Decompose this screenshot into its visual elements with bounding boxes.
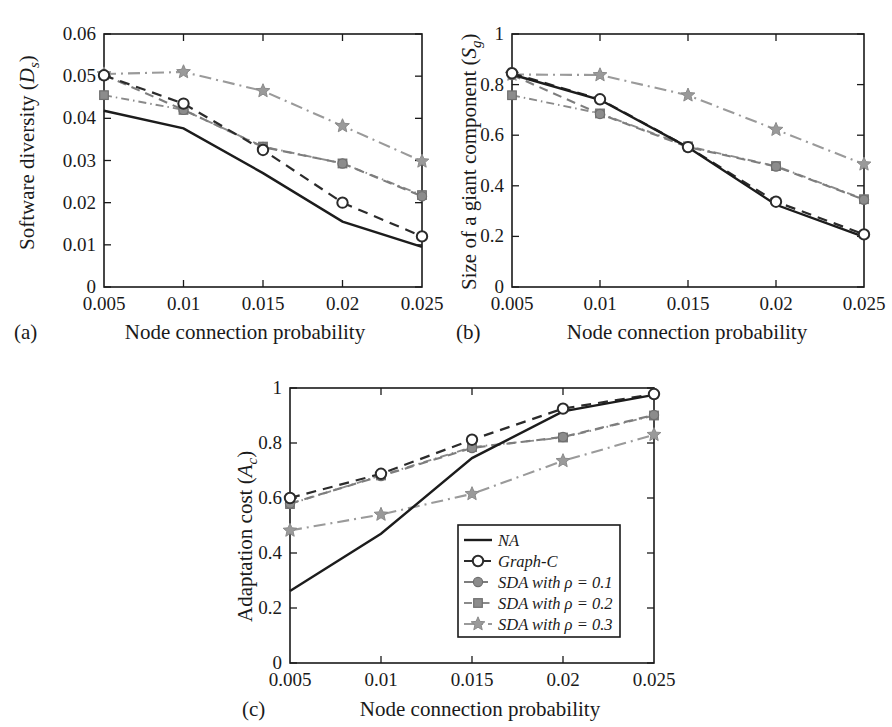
y-tick-label: 0.05 bbox=[63, 65, 96, 86]
series-marker-4 bbox=[593, 68, 607, 81]
legend-label-0: NA bbox=[497, 531, 520, 550]
x-tick-label: 0.01 bbox=[583, 293, 616, 314]
y-tick-label: 1 bbox=[495, 23, 505, 44]
panel-b-ylabel-main: Size of a giant component ( bbox=[457, 58, 481, 290]
panel-b-xlabel: Node connection probability bbox=[567, 320, 808, 344]
x-tick-label: 0.025 bbox=[843, 293, 886, 314]
plot-frame bbox=[104, 34, 422, 287]
x-tick-label: 0.005 bbox=[269, 669, 312, 690]
series-marker-2 bbox=[595, 109, 604, 118]
series-marker-3 bbox=[100, 91, 109, 100]
series-marker-4 bbox=[556, 454, 570, 467]
panel-c-xlabel: Node connection probability bbox=[360, 697, 601, 721]
series-marker-1 bbox=[683, 142, 693, 152]
x-tick-label: 0.02 bbox=[546, 669, 579, 690]
legend-label-4: SDA with ρ = 0.3 bbox=[498, 615, 613, 634]
panel-b-ylabel-close: ) bbox=[457, 33, 481, 40]
series-marker-4 bbox=[177, 65, 191, 78]
panel-a-ylabel-var: D bbox=[15, 68, 39, 84]
panel-a-letter: (a) bbox=[14, 320, 37, 344]
legend-marker-2 bbox=[473, 577, 482, 586]
panel-b-plot-area: 00.20.40.60.810.0050.010.0150.020.025 bbox=[480, 23, 885, 314]
plot-frame bbox=[512, 34, 864, 287]
series-marker-1 bbox=[467, 435, 477, 445]
series-marker-4 bbox=[681, 88, 695, 101]
series-marker-2 bbox=[558, 432, 567, 441]
panel-b-ylabel-var: S bbox=[457, 47, 481, 58]
series-marker-4 bbox=[336, 119, 350, 132]
y-tick-label: 0.04 bbox=[63, 107, 97, 128]
x-tick-label: 0.005 bbox=[83, 293, 126, 314]
x-tick-label: 0.015 bbox=[242, 293, 285, 314]
legend-marker-1 bbox=[473, 556, 483, 566]
svg-text:Software diversity (Ds): Software diversity (Ds) bbox=[15, 55, 42, 250]
series-marker-4 bbox=[256, 84, 270, 97]
panel-a-plot-area: 00.010.020.030.040.050.060.0050.010.0150… bbox=[63, 23, 444, 314]
series-marker-1 bbox=[178, 98, 188, 108]
y-tick-label: 0.8 bbox=[258, 432, 282, 453]
svg-text:Adaptation cost (Ac): Adaptation cost (Ac) bbox=[233, 451, 260, 622]
y-tick-label: 0.8 bbox=[480, 74, 504, 95]
series-marker-1 bbox=[337, 197, 347, 207]
series-marker-4 bbox=[769, 122, 783, 135]
panel-a-ylabel-main: Software diversity ( bbox=[15, 83, 39, 250]
series-marker-2 bbox=[771, 162, 780, 171]
panel-b-letter: (b) bbox=[456, 320, 481, 344]
series-marker-2 bbox=[417, 192, 426, 201]
panel-b-ylabel: Size of a giant component (Sg) bbox=[457, 33, 484, 290]
x-tick-label: 0.01 bbox=[167, 293, 200, 314]
series-marker-4 bbox=[465, 487, 479, 500]
x-tick-label: 0.01 bbox=[364, 669, 397, 690]
series-marker-1 bbox=[99, 70, 109, 80]
series-marker-2 bbox=[338, 159, 347, 168]
panel-c-ylabel: Adaptation cost (Ac) bbox=[233, 451, 260, 622]
series-marker-1 bbox=[417, 231, 427, 241]
y-tick-label: 0.2 bbox=[480, 225, 504, 246]
panel-a-software-diversity: Software diversity (Ds) 00.010.020.030.0… bbox=[0, 0, 450, 350]
series-line-0 bbox=[104, 111, 422, 247]
series-marker-2 bbox=[859, 195, 868, 204]
x-tick-label: 0.005 bbox=[491, 293, 534, 314]
y-tick-label: 0.2 bbox=[258, 597, 282, 618]
x-tick-label: 0.02 bbox=[759, 293, 792, 314]
x-tick-label: 0.025 bbox=[633, 669, 676, 690]
y-tick-label: 0.6 bbox=[480, 124, 504, 145]
panel-c-ylabel-main: Adaptation cost ( bbox=[233, 477, 257, 622]
legend: NAGraph-CSDA with ρ = 0.1SDA with ρ = 0.… bbox=[458, 525, 620, 637]
series-marker-1 bbox=[595, 94, 605, 104]
panel-a-ylabel-close: ) bbox=[15, 55, 39, 62]
series-marker-1 bbox=[558, 403, 568, 413]
legend-label-1: Graph-C bbox=[498, 552, 559, 571]
series-marker-3 bbox=[508, 91, 517, 100]
x-tick-label: 0.015 bbox=[667, 293, 710, 314]
series-marker-1 bbox=[859, 229, 869, 239]
y-tick-label: 0.01 bbox=[63, 234, 96, 255]
y-tick-label: 0.03 bbox=[63, 150, 96, 171]
legend-marker-3 bbox=[474, 599, 483, 608]
svg-text:Size of a giant component (Sg): Size of a giant component (Sg) bbox=[457, 33, 484, 290]
series-marker-1 bbox=[376, 469, 386, 479]
y-tick-label: 0.6 bbox=[258, 487, 282, 508]
series-marker-1 bbox=[285, 493, 295, 503]
series-marker-4 bbox=[374, 507, 388, 520]
legend-label-3: SDA with ρ = 0.2 bbox=[498, 594, 613, 613]
series-marker-1 bbox=[649, 389, 659, 399]
panel-c-svg: Adaptation cost (Ac) 00.20.40.60.810.005… bbox=[218, 360, 688, 727]
series-marker-2 bbox=[649, 410, 658, 419]
x-tick-label: 0.015 bbox=[451, 669, 494, 690]
panel-c-ylabel-var: A bbox=[233, 464, 257, 479]
panel-a-xlabel: Node connection probability bbox=[125, 320, 366, 344]
x-tick-label: 0.025 bbox=[401, 293, 444, 314]
series-marker-1 bbox=[258, 145, 268, 155]
y-tick-label: 0.02 bbox=[63, 192, 96, 213]
panel-b-giant-component: Size of a giant component (Sg) 00.20.40.… bbox=[442, 0, 892, 350]
panel-c-adaptation-cost: Adaptation cost (Ac) 00.20.40.60.810.005… bbox=[218, 360, 688, 727]
series-marker-1 bbox=[771, 197, 781, 207]
y-tick-label: 0.06 bbox=[63, 23, 96, 44]
panel-b-svg: Size of a giant component (Sg) 00.20.40.… bbox=[442, 0, 892, 350]
legend-label-2: SDA with ρ = 0.1 bbox=[498, 573, 613, 592]
x-tick-label: 0.02 bbox=[326, 293, 359, 314]
y-tick-label: 1 bbox=[273, 377, 283, 398]
y-tick-label: 0.4 bbox=[480, 175, 504, 196]
panel-c-letter: (c) bbox=[242, 697, 265, 721]
